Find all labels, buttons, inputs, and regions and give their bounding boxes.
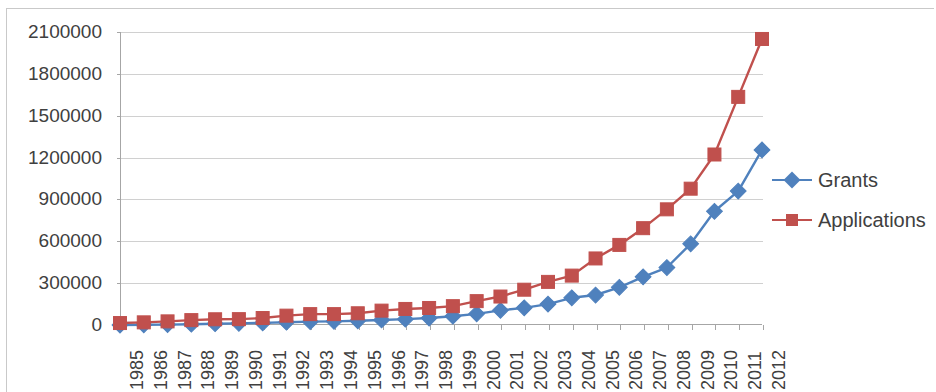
data-point-marker [518,283,531,296]
y-axis-tick-label: 1200000 [0,148,112,167]
y-axis-tick-label: 900000 [0,189,112,208]
data-point-marker [732,90,745,103]
x-axis-tick-label: 1995 [366,324,384,390]
x-axis-tick-label: 2000 [485,324,503,390]
y-axis-tick-label: 1500000 [0,106,112,125]
series-line [120,39,762,323]
data-point-marker [470,295,483,308]
data-point-marker [542,275,555,288]
data-point-marker [351,307,364,320]
legend-key-icon [772,172,812,188]
data-point-marker [256,312,269,325]
x-axis-tick-label: 1985 [128,324,146,390]
x-axis-tick-label: 1994 [342,324,360,390]
x-axis-tick-label: 1990 [247,324,265,390]
data-point-marker [565,269,578,282]
x-axis-tick-label: 1986 [152,324,170,390]
chart-legend: GrantsApplications [772,160,932,240]
data-point-marker [588,287,604,303]
x-axis-tick-label: 2006 [627,324,645,390]
legend-label: Grants [818,170,878,190]
x-axis-tick-label: 1993 [318,324,336,390]
data-point-marker [589,252,602,265]
data-point-marker [399,302,412,315]
data-point-marker [516,300,532,316]
series-grants [112,142,770,333]
legend-key-icon [772,212,812,228]
x-axis-tick-label: 2010 [722,324,740,390]
x-axis-tick-label: 2004 [580,324,598,390]
x-axis-tick-label: 1989 [223,324,241,390]
data-point-marker [635,269,651,285]
legend-label: Applications [818,210,926,230]
x-axis-tick-label: 2003 [556,324,574,390]
line-chart: 0300000600000900000120000015000001800000… [0,0,936,392]
data-point-marker [469,306,485,322]
data-point-marker [660,203,673,216]
x-axis-tick-label: 2008 [675,324,693,390]
x-axis-tick-label: 1991 [271,324,289,390]
data-point-marker [280,309,293,322]
data-point-marker [375,304,388,317]
x-axis-tick-label: 1999 [461,324,479,390]
x-axis-tick-label: 2009 [699,324,717,390]
square-marker-icon [786,214,798,226]
y-axis-tick-label: 2100000 [0,22,112,41]
data-point-marker [423,301,436,314]
data-point-marker [708,148,721,161]
data-point-marker [446,300,459,313]
x-axis-tick-label: 2012 [770,324,788,390]
data-point-marker [328,308,341,321]
y-axis-tick-label: 0 [0,315,112,334]
legend-item-applications[interactable]: Applications [772,200,932,240]
series-applications [114,32,769,329]
data-point-marker [304,308,317,321]
x-axis-tick-label: 2002 [532,324,550,390]
diamond-marker-icon [784,172,801,189]
data-point-marker [637,222,650,235]
data-point-marker [684,182,697,195]
x-axis-tick-label: 2011 [746,324,764,390]
x-axis-tick-label: 1998 [437,324,455,390]
y-axis-labels: 0300000600000900000120000015000001800000… [0,0,112,392]
x-axis-labels: 1985198619871988198919901991199219931994… [120,326,762,392]
data-point-marker [613,238,626,251]
x-axis-tick-label: 2005 [604,324,622,390]
y-axis-tick-label: 300000 [0,273,112,292]
data-point-marker [756,32,769,45]
y-axis-tick-label: 1800000 [0,64,112,83]
x-axis-tick-label: 1987 [176,324,194,390]
x-axis-tick-label: 2007 [651,324,669,390]
data-point-marker [493,302,509,318]
data-point-marker [611,279,627,295]
data-point-marker [564,290,580,306]
data-point-marker [494,290,507,303]
series-line [120,150,762,325]
x-axis-tick-label: 1992 [294,324,312,390]
x-axis-tick-label: 1988 [199,324,217,390]
series-layer [120,32,762,325]
legend-item-grants[interactable]: Grants [772,160,932,200]
x-axis-tick-label: 2001 [508,324,526,390]
y-axis-tick-label: 600000 [0,231,112,250]
data-point-marker [540,296,556,312]
x-axis-tick-label: 1997 [413,324,431,390]
x-axis-tick-label: 1996 [390,324,408,390]
data-point-marker [754,142,770,158]
